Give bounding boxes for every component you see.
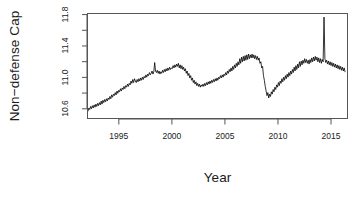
plot-area (87, 13, 348, 119)
series-line-chart (88, 14, 347, 118)
data-line (88, 17, 345, 111)
x-tick-label: 2010 (258, 131, 298, 141)
y-tick-label: 11.4 (60, 33, 71, 59)
x-axis-title: Year (87, 170, 348, 185)
y-tick-label: 11.8 (60, 2, 71, 28)
x-tick-label: 2000 (152, 131, 192, 141)
chart-screenshot: Non−defense Cap 10.611.011.411.8 1995200… (0, 0, 363, 202)
x-tick-label: 2015 (311, 131, 351, 141)
y-tick-label: 11.0 (60, 64, 71, 90)
y-tick-label: 10.6 (60, 96, 71, 122)
x-axis (80, 118, 358, 130)
y-axis-title: Non−defense Cap (0, 0, 28, 132)
x-tick-label: 1995 (99, 131, 139, 141)
x-tick-label: 2005 (205, 131, 245, 141)
